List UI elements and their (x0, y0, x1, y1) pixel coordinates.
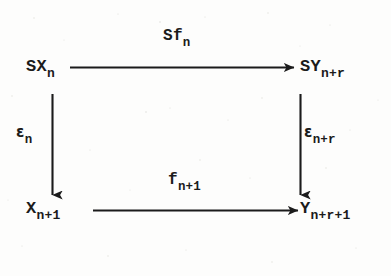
arrow-label-top-horizontal: Sfn (163, 28, 191, 49)
commutative-diagram: SXn SYn+r Xn+1 Yn+r+1 Sfn fn+1 εn εn+r (0, 0, 391, 276)
arrow-label-base-right: ε (304, 123, 313, 141)
node-label-top-right: SYn+r (300, 58, 345, 80)
node-label-bottom-left: Xn+1 (26, 200, 61, 222)
node-label-top-left: SXn (26, 58, 55, 80)
arrow-label-base-left: ε (16, 123, 25, 141)
arrow-label-base-bottom: f (168, 171, 178, 189)
node-base-bottom-left: X (26, 199, 37, 218)
arrow-label-subscript-bottom: n+1 (178, 180, 201, 194)
arrow-label-left-vertical: εn (16, 125, 32, 146)
node-subscript-bottom-right: n+r+1 (311, 208, 351, 223)
node-base-top-right: SY (300, 57, 321, 76)
arrow-label-right-vertical: εn+r (304, 125, 336, 146)
node-base-bottom-right: Y (300, 199, 311, 218)
arrow-label-subscript-right: n+r (313, 133, 336, 147)
node-base-top-left: SX (26, 57, 47, 76)
node-subscript-top-right: n+r (321, 66, 345, 81)
node-subscript-bottom-left: n+1 (37, 208, 61, 223)
arrow-label-subscript-top: n (183, 36, 191, 50)
node-label-bottom-right: Yn+r+1 (300, 200, 351, 222)
arrow-label-subscript-left: n (25, 133, 33, 147)
arrow-label-bottom-horizontal: fn+1 (168, 172, 201, 193)
arrow-label-base-top: Sf (163, 27, 183, 45)
node-subscript-top-left: n (47, 66, 55, 81)
